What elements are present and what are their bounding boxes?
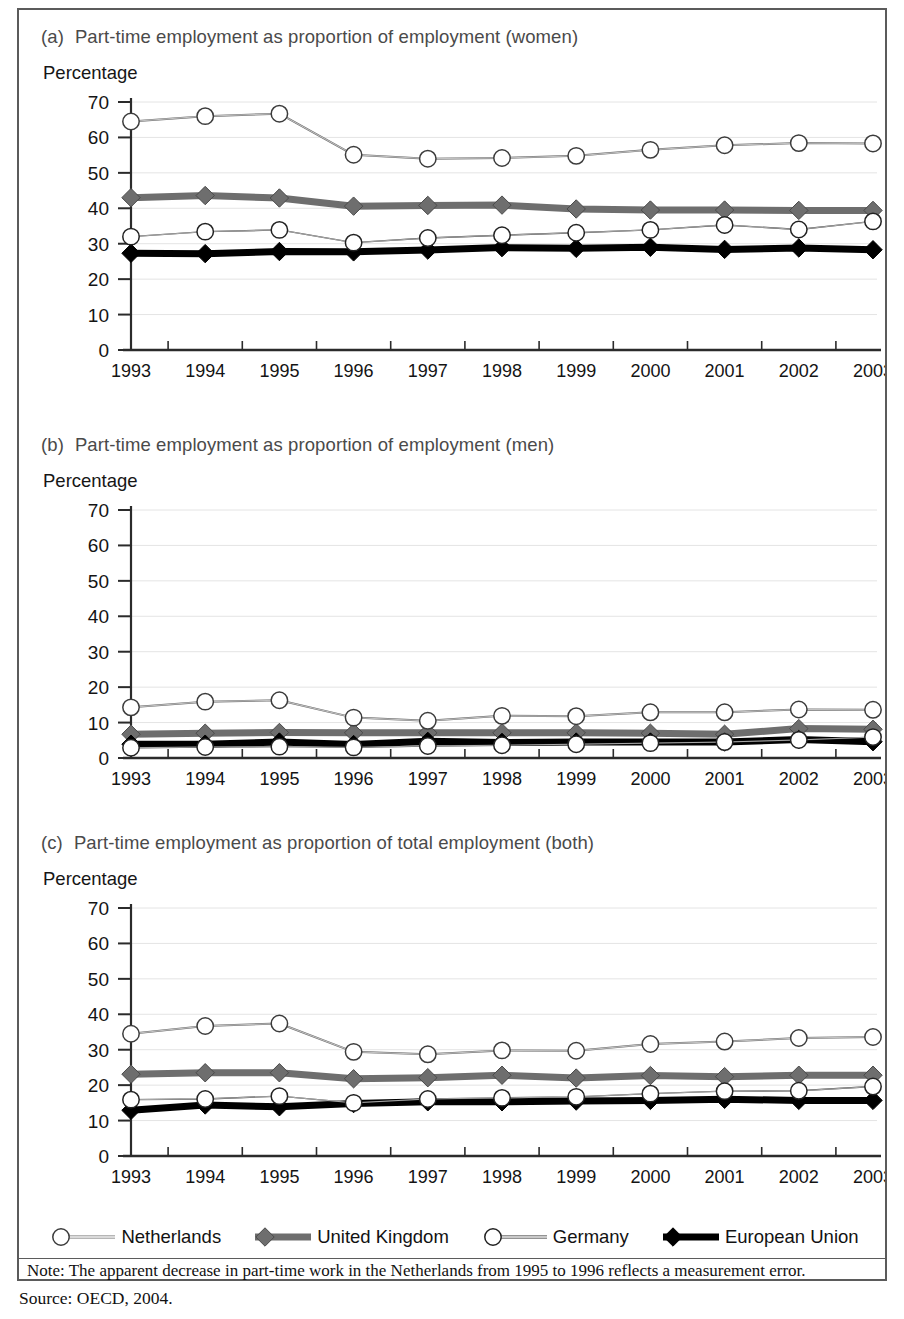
x-tick-label: 1996 <box>334 361 374 381</box>
y-tick-label: 30 <box>88 1040 109 1061</box>
y-tick-label: 40 <box>88 1004 109 1025</box>
panel-a-plot-area: 0102030405060701993199419951996199719981… <box>19 90 885 390</box>
panel-c-plot-area: 0102030405060701993199419951996199719981… <box>19 896 885 1196</box>
legend-item-united-kingdom[interactable]: United Kingdom <box>249 1224 449 1250</box>
x-tick-label: 1997 <box>408 1167 448 1187</box>
x-tick-label: 1997 <box>408 361 448 381</box>
data-point <box>197 108 213 124</box>
x-tick-label: 1993 <box>111 361 151 381</box>
data-point <box>345 234 361 250</box>
data-point <box>345 1044 361 1060</box>
x-tick-label: 2002 <box>779 769 819 789</box>
panel-c-title: (c)Part-time employment as proportion of… <box>41 832 594 854</box>
panel-c-title-text: Part-time employment as proportion of to… <box>74 832 594 853</box>
data-point <box>197 693 213 709</box>
x-tick-label: 1994 <box>185 361 225 381</box>
y-tick-label: 70 <box>88 500 109 521</box>
data-point <box>419 196 437 214</box>
data-point <box>641 1066 659 1084</box>
panel-b-plot-area: 0102030405060701993199419951996199719981… <box>19 498 885 798</box>
panel-a-tag: (a) <box>41 26 64 47</box>
data-point <box>123 1091 139 1107</box>
data-point <box>865 1029 881 1045</box>
series-united-kingdom <box>122 186 882 219</box>
legend-label: European Union <box>725 1226 859 1248</box>
data-point <box>791 732 807 748</box>
data-point <box>271 105 287 121</box>
legend-item-european-union[interactable]: European Union <box>657 1224 859 1250</box>
y-tick-label: 0 <box>98 340 109 361</box>
data-point <box>420 1091 436 1107</box>
x-tick-label: 2000 <box>630 769 670 789</box>
data-point <box>494 227 510 243</box>
x-tick-label: 1999 <box>556 1167 596 1187</box>
legend-swatch-black-diamond-icon <box>657 1224 723 1250</box>
data-point <box>123 113 139 129</box>
x-tick-label: 2002 <box>779 361 819 381</box>
data-point <box>791 221 807 237</box>
data-point <box>642 142 658 158</box>
legend-item-netherlands[interactable]: Netherlands <box>45 1224 221 1250</box>
y-tick-label: 70 <box>88 92 109 113</box>
y-tick-label: 40 <box>88 198 109 219</box>
data-point <box>122 1065 140 1083</box>
data-point <box>271 222 287 238</box>
x-tick-label: 1993 <box>111 1167 151 1187</box>
data-point <box>642 735 658 751</box>
data-point <box>716 704 732 720</box>
data-point <box>419 1069 437 1087</box>
data-point <box>642 1036 658 1052</box>
data-point <box>270 189 288 207</box>
data-point <box>494 1042 510 1058</box>
y-tick-label: 50 <box>88 969 109 990</box>
legend-label: Netherlands <box>121 1226 221 1248</box>
data-point <box>567 200 585 218</box>
x-tick-label: 2002 <box>779 1167 819 1187</box>
data-point <box>271 692 287 708</box>
data-point <box>568 148 584 164</box>
data-point <box>494 708 510 724</box>
x-tick-label: 2000 <box>630 1167 670 1187</box>
x-tick-label: 1996 <box>334 769 374 789</box>
chart-panel-a: (a)Part-time employment as proportion of… <box>19 12 885 420</box>
y-tick-label: 0 <box>98 748 109 769</box>
data-point <box>567 239 585 257</box>
y-tick-label: 20 <box>88 677 109 698</box>
y-tick-label: 60 <box>88 127 109 148</box>
data-point <box>791 1083 807 1099</box>
panel-b-title: (b)Part-time employment as proportion of… <box>41 434 554 456</box>
panel-b-title-text: Part-time employment as proportion of em… <box>75 434 554 455</box>
x-tick-label: 2003 <box>853 1167 885 1187</box>
legend-item-germany[interactable]: Germany <box>477 1224 629 1250</box>
data-point <box>420 150 436 166</box>
chart-panel-b: (b)Part-time employment as proportion of… <box>19 420 885 818</box>
x-tick-label: 1994 <box>185 1167 225 1187</box>
source-text: Source: OECD, 2004. <box>19 1288 173 1309</box>
data-point <box>865 135 881 151</box>
panel-b-axis-title: Percentage <box>43 470 138 492</box>
data-point <box>271 1088 287 1104</box>
y-tick-label: 10 <box>88 1111 109 1132</box>
y-tick-label: 0 <box>98 1146 109 1167</box>
y-tick-label: 40 <box>88 606 109 627</box>
y-tick-label: 20 <box>88 1075 109 1096</box>
data-point <box>345 709 361 725</box>
x-tick-label: 1994 <box>185 769 225 789</box>
y-tick-label: 50 <box>88 571 109 592</box>
data-point <box>123 1026 139 1042</box>
data-point <box>494 150 510 166</box>
data-point <box>270 1064 288 1082</box>
x-tick-label: 1999 <box>556 769 596 789</box>
data-point <box>197 1018 213 1034</box>
x-tick-label: 1996 <box>334 1167 374 1187</box>
series-netherlands <box>123 692 881 729</box>
y-tick-label: 70 <box>88 898 109 919</box>
y-tick-label: 50 <box>88 163 109 184</box>
data-point <box>270 242 288 260</box>
x-tick-label: 1998 <box>482 769 522 789</box>
panel-c-axis-title: Percentage <box>43 868 138 890</box>
series-netherlands <box>123 1015 881 1062</box>
legend-swatch-open-circle-icon <box>45 1224 119 1250</box>
data-point <box>716 217 732 233</box>
data-point <box>493 196 511 214</box>
